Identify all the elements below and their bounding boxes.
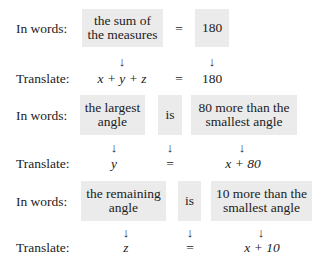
translate-label-2: Translate: — [16, 156, 70, 172]
words-box-largest: the largest angle — [80, 95, 145, 135]
in-words-label-1: In words: — [16, 21, 67, 37]
translate-equals-1: = — [175, 71, 183, 87]
in-words-label-2: In words: — [16, 108, 67, 124]
translate-expr-2b: x + 80 — [225, 156, 260, 172]
words-box-is-1: is — [158, 95, 182, 135]
words-box-180: 180 — [195, 9, 229, 47]
down-arrow-icon: ↓ — [209, 55, 216, 68]
translate-expr-1b: 180 — [202, 71, 222, 87]
down-arrow-icon: ↓ — [187, 226, 194, 239]
down-arrow-icon: ↓ — [123, 226, 130, 239]
translate-label-1: Translate: — [16, 71, 70, 87]
translate-expr-2a: y — [111, 156, 117, 172]
down-arrow-icon: ↓ — [119, 55, 126, 68]
words-box-is-2: is — [178, 181, 201, 221]
in-words-label-3: In words: — [16, 194, 67, 210]
equals-sign-1: = — [175, 21, 183, 37]
down-arrow-icon: ↓ — [167, 141, 174, 154]
translate-expr-3a: z — [123, 240, 128, 256]
words-box-10-more: 10 more than the smallest angle — [211, 181, 312, 221]
translate-label-3: Translate: — [16, 240, 70, 256]
words-box-sum: the sum of the measures — [82, 9, 163, 47]
translate-equals-3: = — [186, 240, 194, 256]
down-arrow-icon: ↓ — [258, 226, 265, 239]
translate-expr-3b: x + 10 — [244, 240, 279, 256]
words-box-remaining: the remaining angle — [81, 181, 166, 221]
translate-expr-1a: x + y + z — [98, 71, 147, 87]
down-arrow-icon: ↓ — [111, 141, 118, 154]
translate-equals-2: = — [166, 156, 174, 172]
down-arrow-icon: ↓ — [239, 141, 246, 154]
words-box-80-more: 80 more than the smallest angle — [191, 95, 297, 135]
